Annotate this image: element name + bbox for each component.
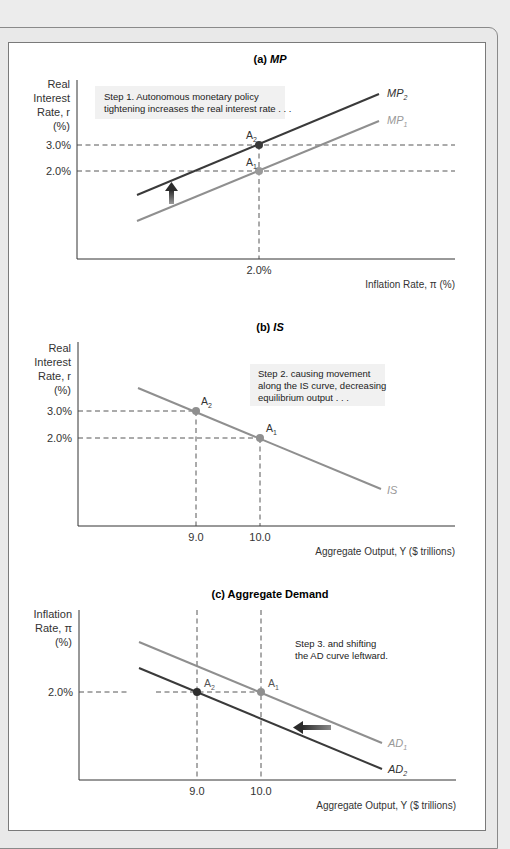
panel-is: (b) IS Real Interest Rate, r (%) Step 2.… — [34, 321, 455, 557]
label-a2-ad: A2 — [204, 677, 215, 691]
label-a2-mp: A2 — [246, 129, 257, 143]
svg-text:the AD curve leftward.: the AD curve leftward. — [295, 650, 388, 661]
x-ticks-is: 9.0 10.0 — [188, 531, 270, 543]
x-axis-label-is: Aggregate Output, Y ($ trillions) — [315, 546, 455, 557]
y-ticks-is: 3.0% 2.0% — [47, 405, 72, 444]
svg-text:Step 2. causing movement: Step 2. causing movement — [258, 368, 371, 379]
point-a1-is — [256, 434, 264, 442]
y-tick-ad: 2.0% — [48, 686, 73, 698]
svg-text:Real: Real — [48, 342, 71, 354]
arrow-left-icon — [293, 721, 331, 734]
panel-title-is: (b) IS — [256, 321, 284, 333]
svg-text:10.0: 10.0 — [250, 785, 271, 797]
label-mp1: MP1 — [387, 114, 408, 128]
panel-title-ad: (c) Aggregate Demand — [212, 588, 329, 600]
svg-text:9.0: 9.0 — [188, 531, 203, 543]
x-ticks-ad: 9.0 10.0 — [189, 785, 271, 797]
x-tick-mp: 2.0% — [246, 264, 271, 276]
point-a2-is — [192, 407, 200, 415]
panel-mp: (a) MP Real Interest Rate, r (%) Step 1.… — [33, 53, 455, 290]
svg-text:Step 1. Autonomous monetary po: Step 1. Autonomous monetary policy — [104, 91, 259, 102]
y-axis-label-ad: Inflation Rate, π (%) — [33, 608, 72, 648]
svg-text:Rate, r: Rate, r — [38, 370, 71, 382]
label-a1-mp: A1 — [246, 156, 257, 170]
x-axis-label-mp: Inflation Rate, π (%) — [365, 279, 455, 290]
svg-text:3.0%: 3.0% — [47, 405, 72, 417]
svg-text:(%): (%) — [54, 384, 71, 396]
label-is: IS — [387, 484, 398, 496]
svg-text:Real: Real — [47, 78, 70, 90]
svg-text:Step 3. and shifting: Step 3. and shifting — [295, 638, 376, 649]
arrow-up-icon — [165, 182, 178, 204]
svg-text:2.0%: 2.0% — [47, 432, 72, 444]
annotation-ad: Step 3. and shifting the AD curve leftwa… — [295, 638, 388, 661]
y-ticks-mp: 3.0% 2.0% — [46, 139, 71, 177]
svg-text:Rate, π: Rate, π — [35, 622, 72, 634]
svg-text:equilibrium output . . .: equilibrium output . . . — [258, 392, 349, 403]
point-a1-ad — [257, 688, 265, 696]
svg-text:2.0%: 2.0% — [46, 165, 71, 177]
svg-text:3.0%: 3.0% — [46, 139, 71, 151]
svg-text:along the IS curve, decreasing: along the IS curve, decreasing — [258, 380, 386, 391]
label-ad2: AD2 — [387, 763, 407, 777]
svg-text:Interest: Interest — [34, 356, 71, 368]
curve-ad2 — [139, 668, 382, 769]
label-a1-is: A1 — [266, 422, 277, 436]
svg-text:Inflation: Inflation — [33, 608, 72, 620]
panel-title-mp: (a) MP — [254, 53, 288, 65]
x-axis-label-ad: Aggregate Output, Y ($ trillions) — [316, 800, 456, 811]
label-a2-is: A2 — [201, 395, 212, 409]
svg-text:(%): (%) — [53, 120, 70, 132]
point-a2-ad — [193, 688, 201, 696]
svg-text:tightening increases the real: tightening increases the real interest r… — [104, 103, 291, 114]
svg-text:9.0: 9.0 — [189, 785, 204, 797]
svg-text:10.0: 10.0 — [249, 531, 270, 543]
svg-text:(%): (%) — [55, 636, 72, 648]
panel-ad: (c) Aggregate Demand Inflation Rate, π (… — [33, 588, 456, 811]
label-ad1: AD1 — [387, 737, 407, 751]
svg-text:Interest: Interest — [33, 92, 70, 104]
svg-text:Rate, r: Rate, r — [37, 106, 70, 118]
label-a1-ad: A1 — [268, 677, 279, 691]
label-mp2: MP2 — [387, 87, 408, 101]
y-axis-label-is: Real Interest Rate, r (%) — [34, 342, 71, 396]
y-axis-label-mp: Real Interest Rate, r (%) — [33, 78, 70, 132]
